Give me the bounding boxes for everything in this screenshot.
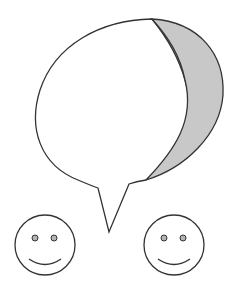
eye-left [161,235,167,241]
face-outline [144,215,204,275]
diagram-canvas [0,0,237,288]
eye-right [180,235,186,241]
smiley-face-right [144,215,204,275]
smiley-face-left [15,215,75,275]
face-outline [15,215,75,275]
eye-right [51,235,57,241]
speech-bubble [36,19,191,232]
eye-left [32,235,38,241]
